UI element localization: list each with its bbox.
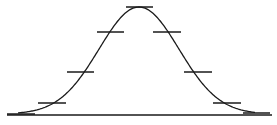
tick-marks [7, 7, 270, 114]
normal-curve [18, 7, 255, 113]
bell-curve-svg [0, 0, 277, 125]
bell-curve-diagram [0, 0, 277, 125]
